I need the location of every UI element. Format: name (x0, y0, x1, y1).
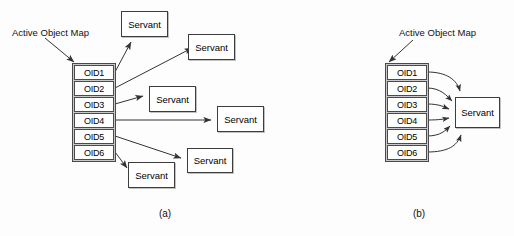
arrow-oid1 (115, 42, 131, 72)
arrow-oid3 (115, 96, 143, 104)
active-object-map-label-a: Active Object Map (12, 28, 89, 38)
caption-a: (a) (145, 208, 185, 219)
oid-row: OID4 (387, 113, 427, 128)
oid-row: OID6 (74, 145, 114, 160)
servant-box: Servant (217, 106, 264, 132)
arrow-oid4 (427, 118, 449, 120)
oid-row: OID1 (387, 65, 427, 80)
arrow-oid2 (427, 88, 452, 101)
map-leader-a (45, 38, 74, 62)
oid-row: OID5 (74, 129, 114, 144)
oid-row: OID6 (387, 145, 427, 160)
servant-box: Servant (149, 86, 196, 112)
servant-box: Servant (455, 97, 500, 128)
map-leader-b (389, 40, 413, 62)
figure-active-object-map: Active Object Map OID1 OID2 OID3 OID4 OI… (0, 0, 514, 236)
arrow-oid5 (115, 136, 181, 158)
servant-box: Servant (188, 34, 235, 60)
servant-box: Servant (121, 11, 168, 37)
arrow-oid5 (427, 126, 450, 136)
arrow-oid6 (115, 152, 127, 168)
oid-row: OID3 (74, 97, 114, 112)
arrow-oid3 (427, 104, 449, 109)
oid-row: OID4 (74, 113, 114, 128)
caption-b: (b) (399, 208, 439, 219)
oid-row: OID5 (387, 129, 427, 144)
active-object-map-label-b: Active Object Map (399, 28, 476, 38)
oid-row: OID3 (387, 97, 427, 112)
oid-row: OID1 (74, 65, 114, 80)
oid-row: OID2 (387, 81, 427, 96)
active-object-map-table-b: OID1 OID2 OID3 OID4 OID5 OID6 (385, 63, 429, 162)
active-object-map-table-a: OID1 OID2 OID3 OID4 OID5 OID6 (72, 63, 116, 162)
servant-box: Servant (128, 162, 175, 188)
oid-row: OID2 (74, 81, 114, 96)
arrow-oid2 (115, 48, 192, 88)
arrow-oid6 (427, 135, 461, 152)
servant-box: Servant (187, 148, 233, 173)
